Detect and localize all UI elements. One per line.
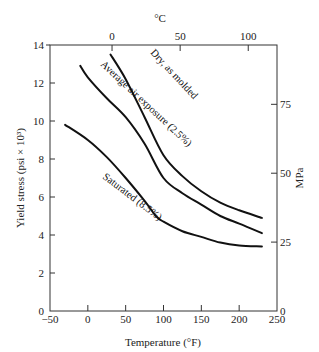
x-tick-label: 50 [120,313,132,325]
x-axis-title: Temperature (°F) [125,336,201,349]
x2-axis-title: °C [154,12,166,24]
x-tick-label: 100 [155,313,172,325]
y-tick-label: 8 [39,153,45,165]
x-tick-label: −50 [41,313,59,325]
y2-tick-label: 0 [280,305,286,317]
x-tick-label: 150 [193,313,210,325]
y2-tick-label: 25 [280,236,292,248]
x2-tick-label: 100 [240,30,257,42]
data-curves [65,55,262,247]
y-tick-label: 4 [39,229,45,241]
y-tick-label: 10 [33,115,45,127]
x2-tick-label: 0 [109,30,115,42]
saturated-label: Saturated (8.5%) [100,171,164,224]
x2-tick-label: 50 [175,30,187,42]
saturated-curve [65,125,262,247]
x-tick-label: 0 [85,313,91,325]
y-axis-title: Yield stress (psi × 10³) [14,128,27,228]
axis-ticks [46,45,277,311]
dry-as-molded-label: Dry, as molded [149,47,201,102]
y-tick-label: 12 [33,77,44,89]
yield-stress-chart: −500501001502002500246810121405010002550… [0,0,319,352]
y-tick-label: 6 [39,191,45,203]
y-tick-label: 2 [39,267,45,279]
y2-tick-label: 75 [280,98,292,110]
y-tick-label: 14 [33,39,45,51]
y2-axis-title: MPa [293,167,305,188]
y-tick-label: 0 [39,305,45,317]
curve-labels: Dry, as moldedAverage air exposure (2.5%… [98,47,201,224]
x-tick-label: 200 [231,313,248,325]
y2-tick-label: 50 [280,167,292,179]
